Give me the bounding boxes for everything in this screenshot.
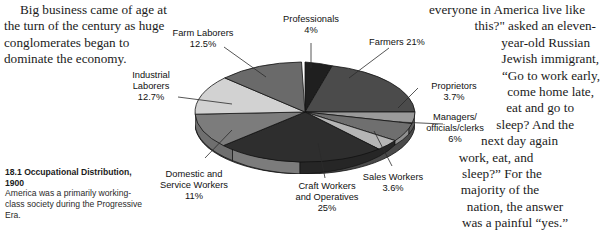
label-craft-workers-line2: and Operatives	[278, 192, 376, 203]
label-domestic-service: Domestic and Service Workers 11%	[142, 169, 246, 203]
figure-title: Occupational Distribution, 1900	[5, 167, 132, 188]
label-farmers: Farmers 21%	[352, 37, 442, 48]
label-professionals-value: 4%	[255, 25, 367, 36]
label-farmers-name: Farmers 21%	[352, 37, 442, 48]
figure-description: America was a primarily working-class so…	[5, 188, 145, 220]
label-industrial-value: 12.7%	[118, 92, 184, 103]
label-industrial-laborers: Industrial Laborers 12.7%	[118, 70, 184, 104]
label-craft-workers-line1: Craft Workers	[278, 181, 376, 192]
label-proprietors: Proprietors 3.7%	[417, 81, 491, 103]
label-craft-workers-value: 25%	[278, 203, 376, 214]
figure-number: 18.1	[5, 167, 22, 177]
label-proprietors-name: Proprietors	[417, 81, 491, 92]
label-proprietors-value: 3.7%	[417, 92, 491, 103]
label-domestic-value: 11%	[142, 191, 246, 202]
figure-page: Big business came of age at the turn of …	[0, 0, 601, 243]
label-domestic-line2: Service Workers	[142, 180, 246, 191]
label-farm-laborers-value: 12.5%	[148, 39, 258, 50]
label-craft-workers: Craft Workers and Operatives 25%	[278, 181, 376, 215]
label-domestic-line1: Domestic and	[142, 169, 246, 180]
label-managers-line2: officials/clerks	[412, 123, 498, 134]
label-managers: Managers/ officials/clerks 6%	[412, 112, 498, 146]
label-managers-value: 6%	[412, 134, 498, 145]
label-professionals: Professionals 4%	[255, 14, 367, 36]
label-industrial-line1: Industrial	[118, 70, 184, 81]
label-managers-line1: Managers/	[412, 112, 498, 123]
figure-caption: 18.1 Occupational Distribution, 1900 Ame…	[5, 167, 145, 221]
label-professionals-name: Professionals	[255, 14, 367, 25]
label-farm-laborers-name: Farm Laborers	[148, 28, 258, 39]
label-farm-laborers: Farm Laborers 12.5%	[148, 28, 258, 50]
label-industrial-line2: Laborers	[118, 81, 184, 92]
